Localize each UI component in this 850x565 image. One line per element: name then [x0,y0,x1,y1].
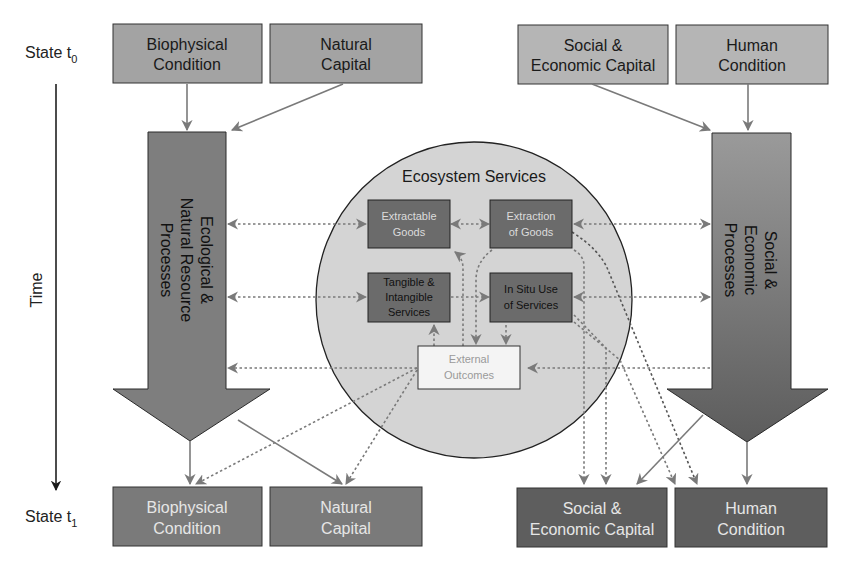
svg-text:Extractable: Extractable [381,210,436,222]
svg-text:of Goods: of Goods [509,226,554,238]
svg-text:Human: Human [726,37,778,54]
svg-text:Biophysical: Biophysical [147,499,228,516]
top-connectors [187,84,748,130]
svg-text:Ecological &: Ecological & [198,216,215,304]
svg-text:Human: Human [725,500,777,517]
top-natural-capital-box: Natural Capital [270,24,422,83]
time-label: Time [28,272,45,307]
svg-text:Processes: Processes [158,223,175,298]
svg-text:of Services: of Services [504,299,559,311]
svg-text:Social &: Social & [564,37,623,54]
svg-text:Goods: Goods [393,226,426,238]
in-situ-use-of-services-box: In Situ Use of Services [490,273,572,322]
ecosystem-services-title: Ecosystem Services [402,168,546,185]
top-biophysical-condition-box: Biophysical Condition [113,24,262,83]
svg-text:Natural Resource: Natural Resource [178,198,195,323]
svg-text:Capital: Capital [321,56,371,73]
svg-text:Biophysical: Biophysical [147,36,228,53]
svg-text:Capital: Capital [321,520,371,537]
bottom-biophysical-condition-box: Biophysical Condition [113,487,262,546]
svg-text:Social &: Social & [762,231,779,290]
svg-text:Intangible: Intangible [385,291,433,303]
ecosystem-services-diagram: State t0 Time State t1 Biophysical Condi… [0,0,850,565]
ecosystem-services-circle: Ecosystem Services [316,142,632,458]
svg-text:Economic Capital: Economic Capital [530,521,655,538]
top-human-condition-box: Human Condition [676,25,828,84]
bottom-social-economic-capital-box: Social & Economic Capital [517,488,667,547]
svg-text:Natural: Natural [320,36,372,53]
state-t0-label: State t0 [25,44,77,65]
svg-text:Condition: Condition [153,520,221,537]
svg-text:Economic: Economic [742,225,759,295]
bottom-human-condition-box: Human Condition [675,488,827,547]
svg-text:Processes: Processes [722,223,739,298]
svg-text:In Situ Use: In Situ Use [504,283,558,295]
svg-text:External: External [449,353,489,365]
svg-text:Social &: Social & [563,500,622,517]
tangible-intangible-services-box: Tangible & Intangible Services [368,273,450,322]
extraction-of-goods-box: Extraction of Goods [490,200,572,248]
svg-text:Outcomes: Outcomes [444,369,495,381]
external-outcomes-box: External Outcomes [418,346,520,389]
svg-text:Condition: Condition [718,57,786,74]
bottom-natural-capital-box: Natural Capital [270,487,422,546]
top-social-economic-capital-box: Social & Economic Capital [518,25,668,84]
svg-text:Condition: Condition [717,521,785,538]
ecological-natural-resource-processes-arrow: Ecological & Natural Resource Processes [113,132,270,441]
svg-text:Natural: Natural [320,499,372,516]
svg-text:Condition: Condition [153,56,221,73]
state-t1-label: State t1 [25,508,77,529]
time-axis: State t0 Time State t1 [25,44,77,529]
svg-text:Economic Capital: Economic Capital [531,57,656,74]
extractable-goods-box: Extractable Goods [368,200,450,248]
svg-text:Extraction: Extraction [507,210,556,222]
svg-text:Services: Services [388,306,431,318]
social-economic-processes-arrow: Social & Economic Processes [667,133,828,442]
svg-text:Tangible &: Tangible & [383,276,435,288]
